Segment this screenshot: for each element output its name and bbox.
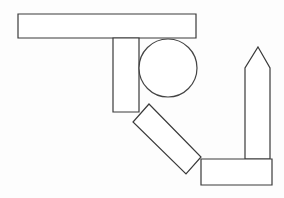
shape-obelisk[interactable]	[245, 47, 270, 159]
shape-circle[interactable]	[139, 39, 197, 97]
shape-vertical-bar[interactable]	[113, 38, 139, 112]
figure-svg	[0, 0, 284, 198]
shape-horizontal-bar[interactable]	[18, 14, 196, 38]
drawing-canvas	[0, 0, 284, 198]
shape-bottom-bar[interactable]	[201, 159, 272, 185]
